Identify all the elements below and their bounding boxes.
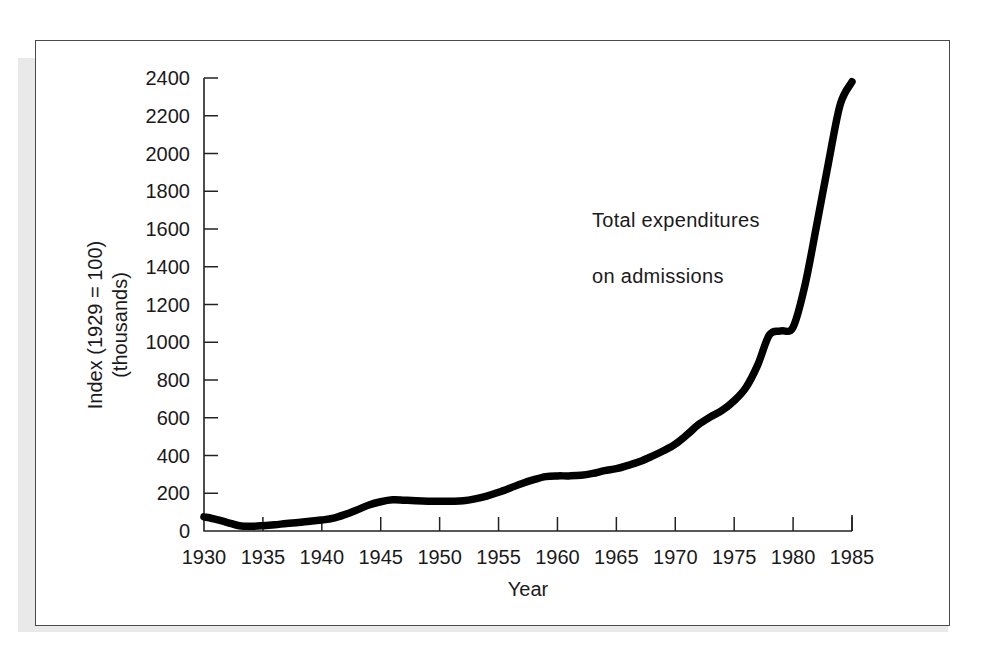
figure-shadow-left <box>18 58 36 618</box>
figure-frame <box>35 40 950 626</box>
